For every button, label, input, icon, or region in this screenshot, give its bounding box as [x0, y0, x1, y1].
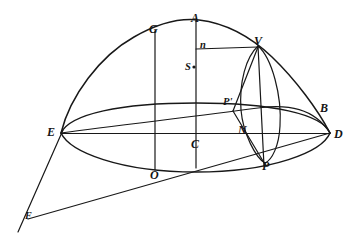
point-label-P-prime: P'	[223, 97, 232, 108]
segment-PpP	[233, 111, 266, 166]
point-label-A: A	[191, 12, 199, 24]
point-label-V: V	[254, 35, 262, 47]
point-label-E: E	[47, 126, 55, 138]
point-label-D: D	[334, 128, 343, 140]
point-label-O: O	[150, 169, 159, 181]
point-label-B: B	[320, 102, 328, 114]
point-label-C: C	[191, 138, 199, 150]
point-label-P: P	[262, 160, 269, 172]
point-label-n: n	[200, 40, 206, 51]
point-label-S: S	[185, 62, 191, 73]
point-marker-S	[192, 65, 195, 68]
segment-VPp	[233, 47, 258, 111]
point-label-N: N	[238, 124, 247, 136]
point-label-F: F	[25, 211, 32, 221]
point-label-G: G	[149, 23, 158, 35]
figure-canvas	[0, 0, 357, 247]
geometry-figure: A G V n S P' B E N D C P O F	[0, 0, 357, 247]
